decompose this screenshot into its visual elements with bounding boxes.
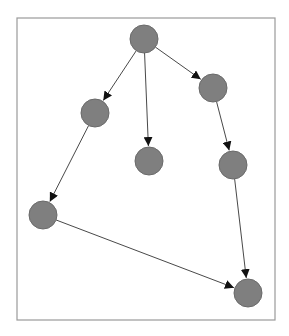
- node-n7: [234, 279, 262, 307]
- graph-diagram: [0, 0, 289, 336]
- node-n6: [29, 201, 57, 229]
- node-n4: [135, 147, 163, 175]
- node-n3: [81, 99, 109, 127]
- node-n5: [219, 151, 247, 179]
- node-n1: [130, 25, 158, 53]
- node-n2: [199, 74, 227, 102]
